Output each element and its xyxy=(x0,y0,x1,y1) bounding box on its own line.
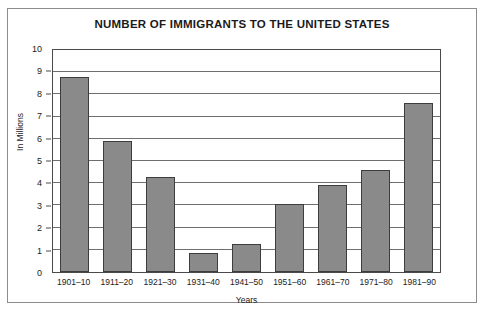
x-axis-tick-label: 1981–90 xyxy=(398,277,441,287)
y-axis-tick-mark xyxy=(46,250,51,251)
y-axis-tick-mark xyxy=(46,116,51,117)
bar-slot xyxy=(53,50,96,272)
y-axis-tick-labels: 109876543210 xyxy=(8,49,48,273)
x-axis-tick-label: 1901–10 xyxy=(52,277,95,287)
y-axis-tick-label: 9 xyxy=(37,66,42,76)
y-axis-tick-label: 5 xyxy=(37,156,42,166)
y-axis-tick-mark xyxy=(46,205,51,206)
bar[interactable] xyxy=(318,185,346,272)
y-axis-tick-label: 3 xyxy=(37,201,42,211)
bar[interactable] xyxy=(404,103,432,272)
x-axis-label: Years xyxy=(52,295,441,305)
bar[interactable] xyxy=(361,170,389,272)
bar-slot xyxy=(225,50,268,272)
x-axis-tick-labels: 1901–101911–201921–301931–401941–501951–… xyxy=(52,277,441,287)
y-axis-tick-label: 10 xyxy=(32,44,42,54)
bar[interactable] xyxy=(103,141,131,272)
bar[interactable] xyxy=(189,253,217,272)
y-axis-tick-mark xyxy=(46,161,51,162)
x-axis-tick-label: 1971–80 xyxy=(355,277,398,287)
y-axis-tick-mark xyxy=(46,183,51,184)
bar-slot xyxy=(311,50,354,272)
bar-slot xyxy=(96,50,139,272)
y-axis-tick-label: 2 xyxy=(37,223,42,233)
bars-container xyxy=(53,50,440,272)
bar-slot xyxy=(182,50,225,272)
x-axis-tick-label: 1921–30 xyxy=(138,277,181,287)
y-axis-tick-mark xyxy=(46,138,51,139)
bar[interactable] xyxy=(232,244,260,272)
x-axis-tick-label: 1931–40 xyxy=(182,277,225,287)
x-axis-tick-label: 1911–20 xyxy=(95,277,138,287)
chart-figure-frame: NUMBER OF IMMIGRANTS TO THE UNITED STATE… xyxy=(7,8,477,303)
bar[interactable] xyxy=(275,204,303,272)
bar[interactable] xyxy=(60,77,88,272)
bar-slot xyxy=(268,50,311,272)
bar[interactable] xyxy=(146,177,174,272)
y-axis-tick-mark xyxy=(46,228,51,229)
y-axis-tick-mark xyxy=(46,71,51,72)
bar-slot xyxy=(139,50,182,272)
y-axis-tick-label: 8 xyxy=(37,89,42,99)
x-axis-tick-label: 1961–70 xyxy=(311,277,354,287)
bar-slot xyxy=(354,50,397,272)
y-axis-tick-label: 6 xyxy=(37,134,42,144)
y-axis-tick-mark xyxy=(46,93,51,94)
chart-title: NUMBER OF IMMIGRANTS TO THE UNITED STATE… xyxy=(8,18,476,30)
y-axis-tick-label: 7 xyxy=(37,111,42,121)
plot-area xyxy=(52,49,441,273)
y-axis-tick-label: 4 xyxy=(37,178,42,188)
x-axis-tick-label: 1951–60 xyxy=(268,277,311,287)
y-axis-tick-label: 1 xyxy=(37,246,42,256)
x-axis-tick-label: 1941–50 xyxy=(225,277,268,287)
bar-slot xyxy=(397,50,440,272)
y-axis-tick-label: 0 xyxy=(37,268,42,278)
